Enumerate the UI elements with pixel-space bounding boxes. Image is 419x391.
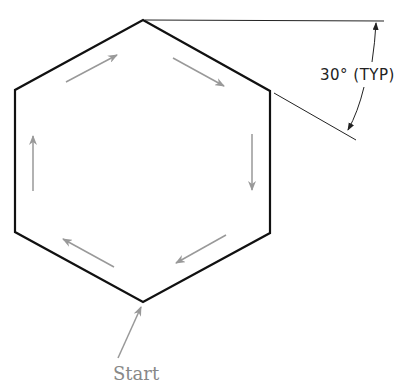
- start-pointer-arrow: [118, 307, 141, 358]
- angle-dimension-arc-lower: [348, 87, 364, 130]
- extension-line-slanted: [274, 93, 356, 140]
- arrow-lower-right-edge: [176, 235, 226, 263]
- angle-dimension-label: 30° (TYP): [320, 66, 395, 84]
- hexagon-outline: [15, 20, 270, 302]
- angle-dimension-arc-upper: [372, 23, 376, 62]
- extension-line-horizontal: [145, 20, 384, 21]
- start-label: Start: [113, 363, 159, 384]
- hexagon-diagram: [0, 0, 419, 391]
